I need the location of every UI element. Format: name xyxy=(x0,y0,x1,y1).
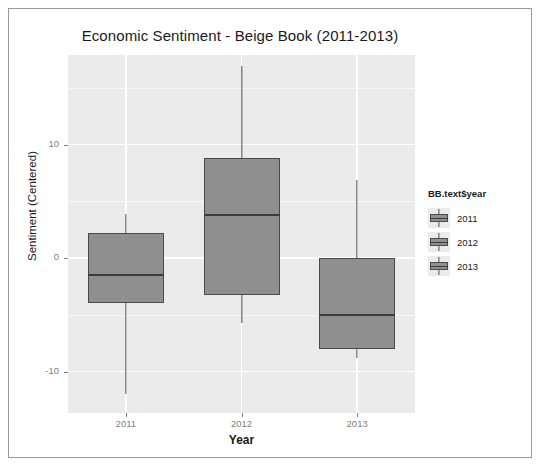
x-tick-mark-2011 xyxy=(126,413,127,417)
x-tick-label-2013: 2013 xyxy=(327,418,387,429)
legend: BB.text$year 201120122013 xyxy=(428,188,528,278)
legend-title: BB.text$year xyxy=(428,188,528,199)
y-tick-label-10: 10 xyxy=(19,138,59,149)
median-line-2013 xyxy=(319,314,395,316)
plot-panel xyxy=(68,55,415,413)
whisker-lower-2013 xyxy=(357,349,358,358)
whisker-upper-2012 xyxy=(241,66,242,158)
legend-items: 201120122013 xyxy=(428,206,528,278)
y-tick-label--10: -10 xyxy=(19,365,59,376)
y-tick-mark--10 xyxy=(64,372,68,373)
legend-item-label: 2012 xyxy=(457,237,478,248)
whisker-lower-2011 xyxy=(125,303,126,394)
whisker-lower-2012 xyxy=(241,295,242,322)
x-tick-mark-2012 xyxy=(242,413,243,417)
whisker-upper-2011 xyxy=(125,214,126,233)
legend-key-icon-2013 xyxy=(428,256,450,276)
x-tick-mark-2013 xyxy=(357,413,358,417)
legend-item-2011[interactable]: 2011 xyxy=(428,206,528,230)
chart-title: Economic Sentiment - Beige Book (2011-20… xyxy=(0,27,480,44)
legend-item-label: 2011 xyxy=(457,213,477,224)
x-tick-label-2012: 2012 xyxy=(212,418,272,429)
y-axis-title: Sentiment (Centered) xyxy=(26,106,38,306)
boxplot-chart: Economic Sentiment - Beige Book (2011-20… xyxy=(0,0,542,467)
y-tick-mark-0 xyxy=(64,258,68,259)
legend-item-2012[interactable]: 2012 xyxy=(428,230,528,254)
x-tick-label-2011: 2011 xyxy=(96,418,156,429)
boxplot-2012 xyxy=(204,55,280,413)
box-2011 xyxy=(88,233,164,303)
boxplot-2011 xyxy=(88,55,164,413)
legend-item-label: 2013 xyxy=(457,261,478,272)
boxplot-2013 xyxy=(319,55,395,413)
y-tick-label-0: 0 xyxy=(19,251,59,262)
x-axis-title: Year xyxy=(68,433,415,447)
legend-key-icon-2011 xyxy=(428,208,450,228)
y-tick-mark-10 xyxy=(64,145,68,146)
legend-key-icon-2012 xyxy=(428,232,450,252)
median-line-2011 xyxy=(88,274,164,276)
legend-item-2013[interactable]: 2013 xyxy=(428,254,528,278)
box-2012 xyxy=(204,158,280,295)
median-line-2012 xyxy=(204,214,280,216)
box-2013 xyxy=(319,258,395,349)
whisker-upper-2013 xyxy=(357,180,358,258)
